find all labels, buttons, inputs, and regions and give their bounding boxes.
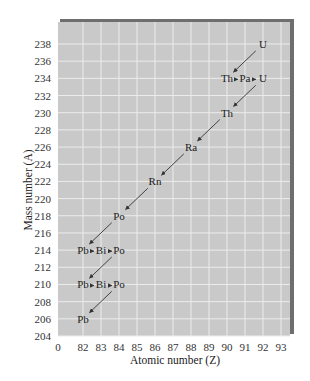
nuclide-label: Th [221,72,234,84]
nuclide-label: U [259,38,267,50]
x-axis-title: Atomic number (Z) [130,354,220,367]
x-tick-label: 85 [132,341,144,353]
y-tick-label: 230 [35,107,52,119]
nuclide-label: Po [113,244,125,256]
nuclide-label: Po [113,278,125,290]
y-tick-label: 210 [35,278,52,290]
x-tick-label: 83 [96,341,108,353]
nuclide-label: Rn [149,175,162,187]
x-tick-label: 87 [168,341,180,353]
x-tick-label: 0 [55,341,61,353]
y-tick-label: 224 [35,158,52,170]
x-tick-label: 90 [222,341,234,353]
x-tick-label: 91 [240,341,251,353]
y-axis-title: Mass number (A) [22,149,35,230]
x-tick-label: 86 [150,341,162,353]
y-tick-label: 208 [35,296,52,308]
x-tick-label: 89 [204,341,216,353]
y-tick-label: 218 [35,210,52,222]
plot-area [58,22,290,336]
y-tick-label: 238 [35,38,52,50]
y-tick-label: 236 [35,55,52,67]
y-tick-label: 206 [35,313,52,325]
nuclide-label: Ra [185,141,197,153]
nuclide-label: U [259,72,267,84]
y-tick-label: 222 [35,175,52,187]
y-tick-label: 226 [35,141,52,153]
x-axis-ticks: 0828384858687888990919293 [55,341,287,353]
y-tick-label: 212 [35,261,52,273]
y-tick-label: 220 [35,193,52,205]
nuclide-label: Pb [77,278,89,290]
x-tick-label: 93 [276,341,288,353]
x-tick-label: 84 [114,341,126,353]
y-axis-ticks: 2382362342322302282262242222202182162142… [35,38,52,342]
nuclide-label: Pa [240,72,251,84]
x-tick-label: 82 [78,341,89,353]
x-tick-label: 92 [258,341,269,353]
decay-series-chart: UThPaUThRaRnPoPbBiPoPbBiPoPb 08283848586… [0,0,310,381]
y-tick-label: 232 [35,90,52,102]
nuclide-label: Bi [96,278,106,290]
nuclide-label: Bi [96,244,106,256]
y-tick-label: 204 [35,330,52,342]
x-tick-label: 88 [186,341,198,353]
y-tick-label: 216 [35,227,52,239]
y-tick-label: 228 [35,124,52,136]
nuclide-label: Pb [77,313,89,325]
y-tick-label: 214 [35,244,52,256]
nuclide-label: Pb [77,244,89,256]
y-tick-label: 234 [35,72,52,84]
nuclide-label: Th [221,107,234,119]
nuclide-label: Po [113,210,125,222]
